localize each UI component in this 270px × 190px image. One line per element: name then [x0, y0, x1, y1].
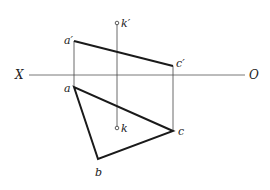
point-k-prime-marker: [115, 21, 119, 25]
axis-label-o: O: [249, 68, 259, 82]
label-c: c: [178, 125, 184, 138]
point-k-marker: [115, 126, 119, 130]
label-k-prime: k′: [121, 17, 131, 30]
label-k: k: [121, 122, 128, 135]
label-c-prime: c′: [176, 57, 185, 70]
label-a: a: [64, 82, 71, 95]
axis-label-x: X: [14, 68, 24, 82]
edge-a-prime-c-prime: [74, 41, 173, 66]
label-a-prime: a′: [64, 34, 74, 47]
projection-diagram: X O a′ c′ k′ a c k b: [0, 0, 270, 190]
label-b: b: [95, 166, 102, 179]
